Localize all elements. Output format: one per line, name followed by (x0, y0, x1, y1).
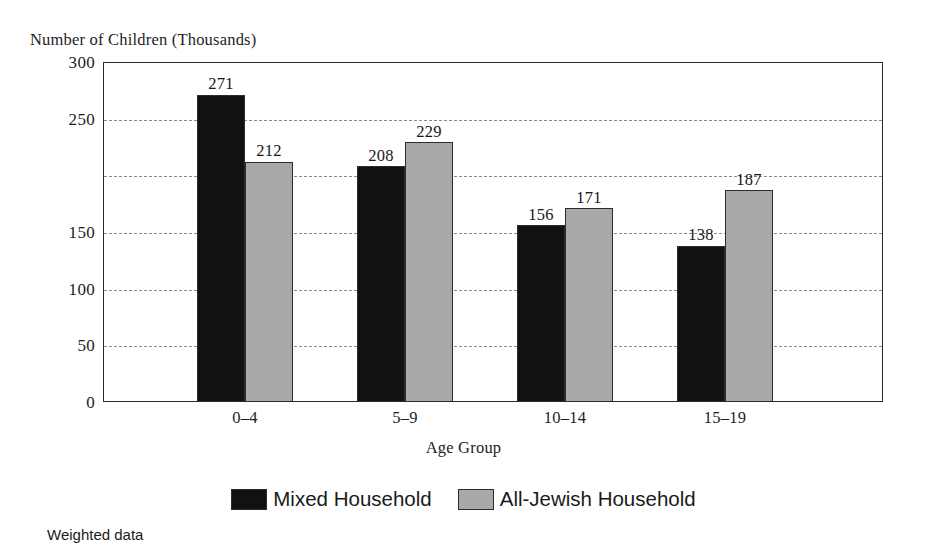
y-axis-tick-label: 250 (0, 110, 95, 127)
gridline (104, 176, 882, 177)
y-axis-title: Number of Children (Thousands) (30, 30, 256, 50)
x-axis-tick-labels: 0–45–910–1415–19 (103, 410, 883, 434)
gridline (104, 346, 882, 347)
x-axis-tick-label: 0–4 (197, 410, 293, 427)
y-axis-tick-label: 300 (0, 54, 95, 71)
plot-area (103, 62, 883, 402)
x-axis-title: Age Group (0, 438, 927, 458)
x-axis-tick-label: 15–19 (677, 410, 773, 427)
gridline (104, 290, 882, 291)
gridlines (104, 63, 882, 401)
y-axis-tick-label: 100 (0, 280, 95, 297)
x-axis-tick-label: 10–14 (517, 410, 613, 427)
gridline (104, 120, 882, 121)
legend-item: Mixed Household (231, 489, 431, 510)
chart-legend: Mixed HouseholdAll-Jewish Household (0, 489, 927, 510)
footnote: Weighted data (47, 527, 143, 542)
y-axis-tick-label: 150 (0, 224, 95, 241)
y-axis-tick-label: 0 (0, 394, 95, 411)
legend-item: All-Jewish Household (458, 489, 696, 510)
legend-label: All-Jewish Household (500, 489, 696, 510)
x-axis-tick-label: 5–9 (357, 410, 453, 427)
y-axis-tick-label: 50 (0, 337, 95, 354)
gridline (104, 233, 882, 234)
legend-swatch (231, 489, 267, 510)
legend-swatch (458, 489, 494, 510)
legend-label: Mixed Household (273, 489, 431, 510)
y-axis-tick-labels: 300250150100500 (0, 62, 95, 402)
